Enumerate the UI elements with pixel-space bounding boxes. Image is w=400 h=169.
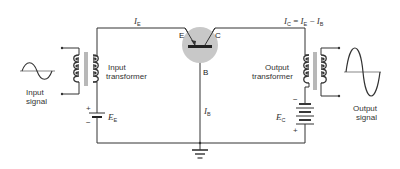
input-signal-label-1: Input xyxy=(26,88,45,97)
output-transformer-icon xyxy=(304,47,340,97)
emitter-battery-minus: − xyxy=(86,118,91,127)
collector-battery-icon xyxy=(296,99,314,127)
emitter-current-label: IE xyxy=(133,16,141,27)
input-transformer-icon xyxy=(61,47,98,95)
output-signal-label-1: Output xyxy=(353,104,378,113)
base-current-label: IB xyxy=(203,106,211,117)
emitter-label: E xyxy=(179,31,184,40)
bottom-wire xyxy=(97,120,305,143)
collector-label: C xyxy=(215,31,221,40)
ground-icon xyxy=(192,150,208,158)
emitter-battery-icon xyxy=(89,107,105,120)
base-label: B xyxy=(203,68,208,77)
collector-wire xyxy=(215,28,305,55)
output-transformer-label-2: transformer xyxy=(252,72,293,81)
input-transformer-label-2: transformer xyxy=(106,72,147,81)
input-sine-wave-icon xyxy=(20,63,55,80)
input-transformer-label-1: Input xyxy=(108,63,127,72)
output-sine-wave-icon xyxy=(344,48,381,96)
collector-supply-label: EC xyxy=(275,112,286,123)
output-signal-label-2: signal xyxy=(356,113,377,122)
collector-battery-plus: + xyxy=(293,126,298,135)
emitter-supply-label: EE xyxy=(107,112,118,123)
input-signal-label-2: signal xyxy=(26,97,47,106)
collector-battery-minus: − xyxy=(293,95,298,104)
emitter-wire xyxy=(97,28,185,56)
collector-current-label: IC = IE − IB xyxy=(283,16,324,27)
base-bar xyxy=(188,45,212,48)
emitter-battery-plus: + xyxy=(86,104,91,113)
circuit-diagram: E C B IE IB IC = IE − IB Input transform… xyxy=(0,0,400,169)
output-transformer-label-1: Output xyxy=(265,63,290,72)
